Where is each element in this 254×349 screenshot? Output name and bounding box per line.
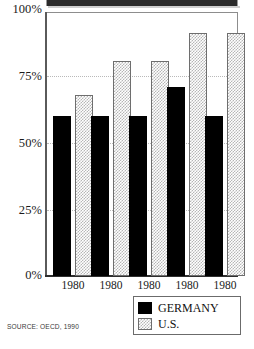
y-tick-label-0: 0%	[0, 269, 42, 282]
legend-swatch-germany-icon	[138, 302, 152, 314]
y-tick-label-100: 100%	[0, 3, 42, 16]
x-tick-label-5: 1980	[205, 279, 245, 292]
x-tick-label-4: 1980	[167, 279, 207, 292]
x-tick-label-2: 1980	[91, 279, 131, 292]
source-note: SOURCE: OECD, 1990	[7, 323, 79, 331]
chart-legend: GERMANY U.S.	[133, 296, 241, 335]
bar-us-5	[227, 33, 245, 276]
bar-germany-2	[91, 116, 109, 276]
x-tick-label-1: 1980	[53, 279, 93, 292]
bar-germany-4	[167, 87, 185, 276]
y-tick-label-50: 50%	[0, 137, 42, 150]
bar-germany-5	[205, 116, 223, 276]
gridline-75	[47, 76, 237, 78]
legend-label-germany: GERMANY	[158, 302, 219, 315]
legend-item-germany: GERMANY	[138, 300, 236, 316]
y-tick-label-75: 75%	[0, 70, 42, 83]
bar-germany-1	[53, 116, 71, 276]
legend-item-us: U.S.	[138, 316, 236, 332]
legend-swatch-us-icon	[138, 318, 152, 330]
bar-germany-3	[129, 116, 147, 276]
legend-label-us: U.S.	[158, 318, 179, 331]
cut-off-title-bar-shadow	[48, 6, 240, 8]
x-tick-label-3: 1980	[129, 279, 169, 292]
y-tick-label-25: 25%	[0, 204, 42, 217]
